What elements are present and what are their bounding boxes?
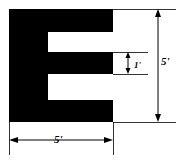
dimensioned-e-shape-figure <box>0 0 180 161</box>
arm-thickness-label: 1' <box>134 61 141 70</box>
overall-height-label: 5' <box>161 56 170 67</box>
e-shaped-polygon <box>9 9 113 122</box>
overall-width-label: 5' <box>54 134 63 145</box>
